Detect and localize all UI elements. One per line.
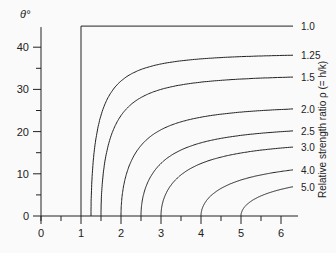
curve-rho-3.0	[161, 147, 293, 216]
x-tick-label: 1	[78, 227, 84, 239]
y-tick-label: 40	[17, 41, 29, 53]
y-tick-label: 20	[17, 126, 29, 138]
x-tick-label: 3	[158, 227, 164, 239]
right-axis-label: Relative strength ratio ρ (= h/k)	[317, 61, 328, 198]
curve-label: 4.0	[301, 165, 315, 176]
curve-label: 1.5	[301, 72, 315, 83]
y-tick-label: 30	[17, 83, 29, 95]
y-axis-label: θ°	[20, 8, 31, 20]
y-tick-label: 0	[23, 210, 29, 222]
curve-label: 2.0	[301, 104, 315, 115]
curve-rho-1.25	[91, 55, 293, 216]
curve-label: 1.25	[301, 50, 321, 61]
curve-label: 5.0	[301, 182, 315, 193]
curve-label: 3.0	[301, 142, 315, 153]
x-tick-label: 5	[238, 227, 244, 239]
x-tick-label: 4	[198, 227, 204, 239]
curve-label: 2.5	[301, 126, 315, 137]
curve-rho-4.0	[201, 170, 293, 216]
curve-rho-1.0	[81, 26, 293, 216]
curve-label: 1.0	[301, 21, 315, 32]
curve-rho-1.5	[101, 77, 293, 216]
curve-rho-5.0	[241, 187, 293, 216]
x-tick-label: 0	[38, 227, 44, 239]
x-tick-label: 6	[278, 227, 284, 239]
y-tick-label: 10	[17, 168, 29, 180]
curves	[81, 26, 293, 216]
x-tick-label: 2	[118, 227, 124, 239]
chart: 01234560102030401.01.251.52.02.53.04.05.…	[0, 0, 336, 253]
labels: 01234560102030401.01.251.52.02.53.04.05.…	[17, 21, 321, 239]
